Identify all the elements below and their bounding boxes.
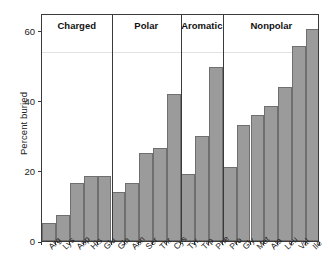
- bar-series: [42, 15, 318, 241]
- bar-ala: [264, 106, 278, 241]
- x-axis-labels: ArgLysAspHisGluGlnAsnSerThrCysTyrTrpPheP…: [41, 245, 319, 274]
- bar-asn: [125, 183, 139, 241]
- bar-gln: [112, 192, 126, 241]
- bar-ile: [306, 29, 319, 241]
- group-separator-aromatic: [181, 15, 182, 241]
- plot-area: ChargedPolarAromaticNonpolar: [41, 14, 319, 242]
- bar-asp: [70, 183, 84, 241]
- group-separator-nonpolar: [223, 15, 224, 241]
- y-tick-label: 20: [24, 167, 38, 177]
- bar-cys: [167, 94, 181, 241]
- y-tick-40: 40: [24, 96, 42, 108]
- bar-val: [292, 46, 306, 241]
- group-header-nonpolar: Nonpolar: [223, 20, 319, 31]
- y-tick-label: 40: [24, 97, 38, 107]
- bar-glu: [98, 176, 112, 241]
- bar-pro: [223, 167, 237, 241]
- bar-thr: [153, 148, 167, 241]
- bar-trp: [195, 136, 209, 241]
- bar-gly: [237, 125, 251, 241]
- bar-leu: [278, 87, 292, 241]
- group-header-charged: Charged: [42, 20, 112, 31]
- y-axis-ticks: 0204060: [0, 0, 42, 274]
- y-tick-label: 0: [30, 237, 38, 247]
- bar-his: [84, 176, 98, 241]
- y-tick-label: 60: [24, 27, 38, 37]
- bar-phe: [209, 67, 223, 241]
- group-header-aromatic: Aromatic: [181, 20, 223, 31]
- bar-ser: [139, 153, 153, 241]
- x-label-ile: Ile: [311, 239, 323, 251]
- y-tick-60: 60: [24, 26, 42, 38]
- bar-tyr: [181, 174, 195, 241]
- bar-chart-figure: Percent buried 0204060 ChargedPolarAroma…: [0, 0, 328, 274]
- bar-met: [251, 115, 265, 241]
- group-separator-polar: [112, 15, 113, 241]
- group-header-polar: Polar: [112, 20, 182, 31]
- y-tick-20: 20: [24, 166, 42, 178]
